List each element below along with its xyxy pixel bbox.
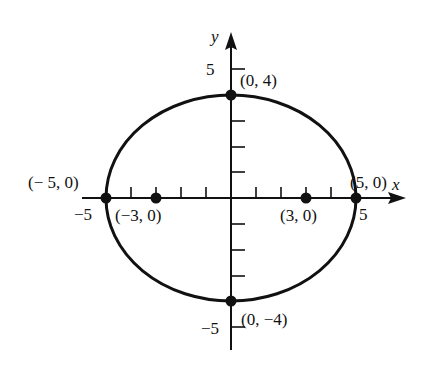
- label-point-right-focus: (3, 0): [280, 206, 317, 225]
- point-left-vertex: [101, 193, 112, 204]
- point-right-vertex: [351, 193, 362, 204]
- point-right-focus: [301, 193, 312, 204]
- x-tick-label-5: 5: [359, 205, 368, 224]
- x-axis-label: x: [391, 175, 400, 194]
- point-left-focus: [151, 193, 162, 204]
- y-axis-label: y: [209, 27, 219, 46]
- label-point-bottom: (0, −4): [241, 310, 287, 329]
- point-top: [226, 90, 237, 101]
- label-point-top: (0, 4): [240, 71, 277, 90]
- label-point-left-focus: (−3, 0): [115, 206, 161, 225]
- label-point-right-vertex: (5, 0): [350, 173, 387, 192]
- label-point-left-vertex: (− 5, 0): [28, 173, 79, 192]
- ellipse-chart: y x 5 −5 −5 5 (0, 4) (0, −4) (− 5, 0) (5…: [0, 0, 433, 373]
- x-tick-label-neg5: −5: [74, 205, 92, 224]
- point-bottom: [226, 296, 237, 307]
- y-tick-label-neg5: −5: [201, 319, 219, 338]
- y-tick-label-5: 5: [206, 60, 215, 79]
